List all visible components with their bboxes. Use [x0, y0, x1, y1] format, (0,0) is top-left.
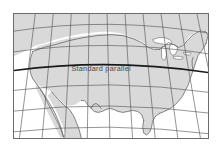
- map-figure: Standard parallel: [0, 0, 223, 150]
- lake-erie: [173, 56, 183, 59]
- map-frame: Standard parallel: [13, 13, 209, 139]
- standard-parallel-label: Standard parallel: [71, 64, 131, 73]
- map-canvas: Standard parallel: [14, 14, 208, 138]
